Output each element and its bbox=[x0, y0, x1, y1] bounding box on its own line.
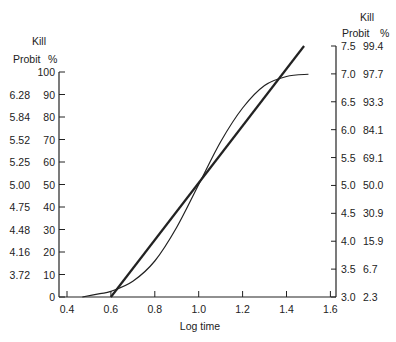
x-axis-tick-label: 1.4 bbox=[272, 303, 302, 315]
right-axis-probit-label: 3.0 bbox=[341, 291, 356, 303]
left-axis-percent-label: 30 bbox=[31, 224, 55, 236]
x-axis-tick-label: 0.4 bbox=[52, 303, 82, 315]
right-axis-percent-label: 2.3 bbox=[363, 291, 378, 303]
left-axis-probit-label: 3.72 bbox=[4, 269, 30, 281]
right-axis-probit-label: 5.5 bbox=[341, 152, 356, 164]
left-axis-percent-label: 80 bbox=[31, 111, 55, 123]
x-axis-title: Log time bbox=[170, 320, 230, 332]
right-axis-probit-label: 7.5 bbox=[341, 40, 356, 52]
axes bbox=[59, 46, 336, 297]
curves bbox=[82, 46, 308, 297]
left-axis-percent-label: 10 bbox=[31, 269, 55, 281]
right-axis-percent-label: 97.7 bbox=[363, 68, 383, 80]
left-axis-title-kill: Kill bbox=[24, 35, 54, 47]
left-axis-probit-label: 4.48 bbox=[4, 224, 30, 236]
right-axis-percent-label: 93.3 bbox=[363, 96, 383, 108]
right-axis-probit-label: 4.5 bbox=[341, 207, 356, 219]
right-axis-percent-label: 50.0 bbox=[363, 179, 383, 191]
right-axis-probit-label: 3.5 bbox=[341, 263, 356, 275]
left-axis-percent-label: 60 bbox=[31, 156, 55, 168]
probit-regression-line bbox=[111, 46, 304, 297]
right-axis-probit-label: 6.5 bbox=[341, 96, 356, 108]
right-axis-percent-label: 69.1 bbox=[363, 152, 383, 164]
right-axis-percent-label: 99.4 bbox=[363, 40, 383, 52]
left-axis-percent-label: 90 bbox=[31, 89, 55, 101]
left-axis-probit-label: 5.84 bbox=[4, 111, 30, 123]
right-axis-percent-label: 84.1 bbox=[363, 124, 383, 136]
left-axis-probit-label: 5.00 bbox=[4, 179, 30, 191]
left-axis-probit-label: 5.52 bbox=[4, 134, 30, 146]
x-axis-tick-label: 1.2 bbox=[228, 303, 258, 315]
right-axis-probit-label: 7.0 bbox=[341, 68, 356, 80]
left-axis-percent-label: 20 bbox=[31, 246, 55, 258]
left-axis-percent-label: 0 bbox=[31, 291, 55, 303]
right-axis-percent-label: 6.7 bbox=[363, 263, 378, 275]
left-axis-percent-label: 40 bbox=[31, 201, 55, 213]
x-axis-tick-label: 1.0 bbox=[184, 303, 214, 315]
right-axis-title-percent: % bbox=[380, 27, 389, 39]
left-axis-title-percent: % bbox=[48, 53, 57, 65]
right-axis-title-probit: Probit bbox=[342, 27, 369, 39]
left-axis-probit-label: 5.25 bbox=[4, 156, 30, 168]
chart-canvas bbox=[0, 0, 396, 342]
x-axis-tick-label: 0.8 bbox=[140, 303, 170, 315]
right-axis-probit-label: 4.0 bbox=[341, 235, 356, 247]
right-axis-title-kill: Kill bbox=[352, 11, 382, 23]
left-axis-percent-label: 50 bbox=[31, 179, 55, 191]
right-axis-percent-label: 30.9 bbox=[363, 207, 383, 219]
x-axis-tick-label: 0.6 bbox=[96, 303, 126, 315]
left-axis-percent-label: 70 bbox=[31, 134, 55, 146]
left-axis-probit-label: 6.28 bbox=[4, 89, 30, 101]
right-axis-percent-label: 15.9 bbox=[363, 235, 383, 247]
x-axis-tick-label: 1.6 bbox=[315, 303, 345, 315]
left-axis-probit-label: 4.16 bbox=[4, 246, 30, 258]
right-axis-probit-label: 6.0 bbox=[341, 124, 356, 136]
left-axis-probit-label: 4.75 bbox=[4, 201, 30, 213]
left-axis-title-probit: Probit bbox=[13, 53, 40, 65]
left-axis-percent-label: 100 bbox=[31, 66, 55, 78]
right-axis-probit-label: 5.0 bbox=[341, 179, 356, 191]
